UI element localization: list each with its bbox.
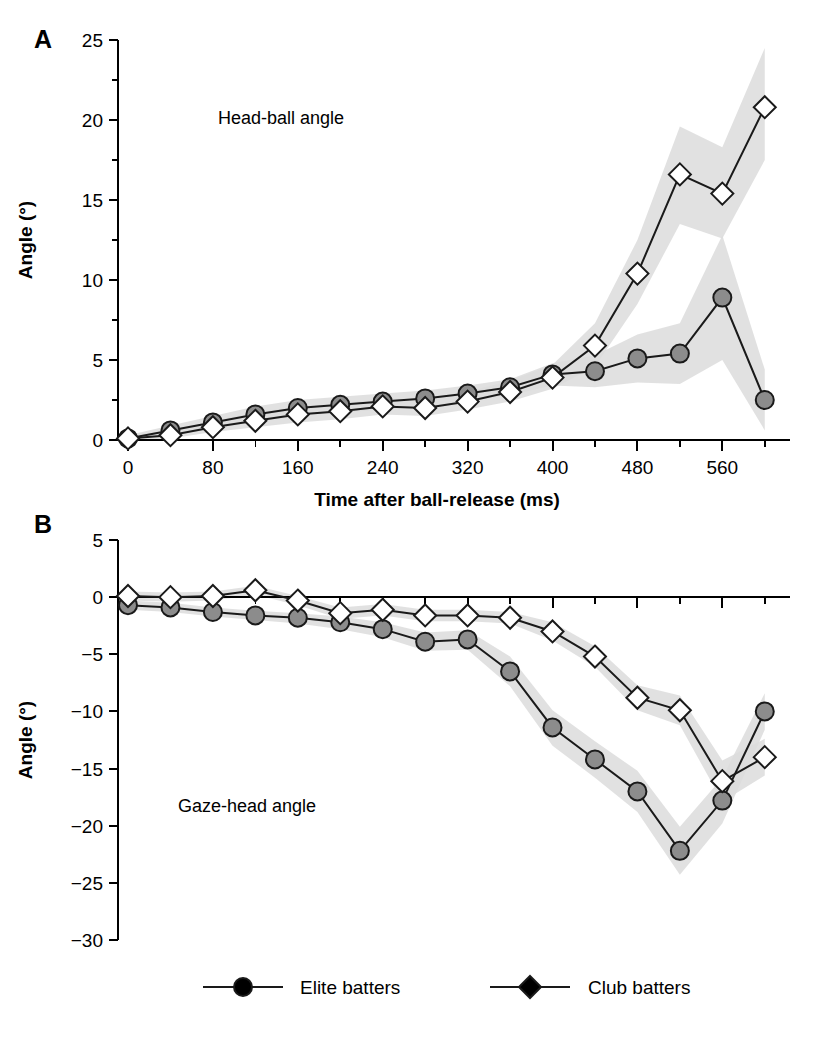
data-point-elite: [628, 782, 646, 800]
two-panel-line-chart: A Head-ball angle 0510152025080160240320…: [0, 0, 813, 1037]
data-point-elite: [416, 633, 434, 651]
x-tick-label: 480: [622, 457, 654, 478]
data-point-elite: [246, 606, 264, 624]
x-tick-label: 560: [706, 457, 738, 478]
panel-b-letter: B: [34, 510, 52, 538]
y-tick-label: 5: [92, 530, 103, 551]
data-point-elite: [756, 702, 774, 720]
y-tick-label: 0: [92, 587, 103, 608]
data-point-elite: [671, 345, 689, 363]
y-tick-label: 10: [82, 270, 103, 291]
y-tick-label: 25: [82, 30, 103, 51]
y-tick-label: −15: [71, 759, 103, 780]
y-tick-label: 15: [82, 190, 103, 211]
panel-a-letter: A: [34, 25, 52, 53]
x-tick-label: 160: [282, 457, 314, 478]
data-point-elite: [459, 630, 477, 648]
y-tick-label: 0: [92, 430, 103, 451]
panel-a-annotation: Head-ball angle: [218, 108, 344, 128]
data-point-elite: [713, 792, 731, 810]
data-point-elite: [374, 620, 392, 638]
x-axis-label: Time after ball-release (ms): [314, 489, 560, 510]
panel-b-annotation: Gaze-head angle: [178, 796, 316, 816]
y-tick-label: −30: [71, 930, 103, 951]
data-point-elite: [756, 391, 774, 409]
data-point-elite: [713, 289, 731, 307]
panel-b-y-axis-label: Angle (°): [15, 701, 36, 779]
x-tick-label: 0: [123, 457, 134, 478]
data-point-elite: [501, 662, 519, 680]
legend-label-elite: Elite batters: [300, 977, 400, 998]
legend-marker-elite-circle: [234, 978, 252, 996]
y-tick-label: −10: [71, 701, 103, 722]
panel-a-y-axis-label: Angle (°): [15, 201, 36, 279]
x-tick-label: 240: [367, 457, 399, 478]
data-point-elite: [544, 718, 562, 736]
y-tick-label: −5: [81, 644, 103, 665]
data-point-elite: [628, 349, 646, 367]
y-tick-label: −20: [71, 816, 103, 837]
y-tick-label: 20: [82, 110, 103, 131]
legend-label-club: Club batters: [588, 977, 690, 998]
y-tick-label: 5: [92, 350, 103, 371]
data-point-elite: [586, 362, 604, 380]
data-point-elite: [671, 842, 689, 860]
x-tick-label: 400: [537, 457, 569, 478]
data-point-elite: [586, 750, 604, 768]
x-tick-label: 80: [202, 457, 223, 478]
figure-container: A Head-ball angle 0510152025080160240320…: [0, 0, 813, 1037]
y-tick-label: −25: [71, 873, 103, 894]
x-tick-label: 320: [452, 457, 484, 478]
